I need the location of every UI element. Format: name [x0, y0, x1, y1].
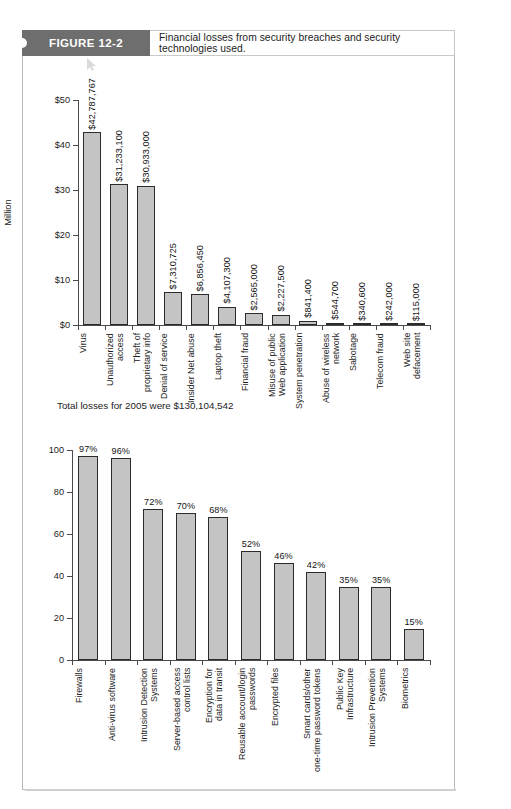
bar-value-label: $544,700	[330, 281, 340, 320]
x-tick-mark	[267, 660, 268, 665]
bar-value-label: $2,565,000	[249, 264, 259, 311]
bar	[353, 323, 371, 325]
x-tick-mark	[332, 660, 333, 665]
x-axis-line	[72, 660, 430, 661]
bar	[339, 587, 359, 661]
bar	[164, 292, 182, 325]
figure-caption: Financial losses from security breaches …	[150, 30, 455, 56]
x-tick-mark	[349, 325, 350, 330]
bar-value-label: $2,227,500	[276, 265, 286, 312]
x-tick-mark	[295, 325, 296, 330]
x-category-label: Smart cards/other one-time password toke…	[303, 668, 329, 780]
bar-value-label: 97%	[72, 444, 104, 454]
x-tick-mark	[105, 660, 106, 665]
bar	[272, 315, 290, 325]
bar-value-label: $6,856,450	[195, 245, 205, 292]
chart-2-plot-area: 02040608010097%Firewalls96%Anti-virus so…	[72, 450, 430, 660]
x-tick-mark	[170, 660, 171, 665]
bar-value-label: 15%	[398, 617, 430, 627]
x-tick-mark	[105, 325, 106, 330]
bar	[274, 563, 294, 660]
bar	[176, 513, 196, 660]
bar-value-label: $115,000	[411, 283, 421, 321]
x-tick-mark	[137, 660, 138, 665]
x-tick-mark	[430, 325, 431, 330]
bar-value-label: $340,600	[357, 282, 367, 321]
x-category-label: Financial fraud	[241, 333, 267, 411]
x-category-label: Server-based access control lists	[173, 668, 199, 780]
x-category-label: Biometrics	[401, 668, 427, 780]
x-tick-mark	[365, 660, 366, 665]
bar	[306, 572, 326, 660]
y-tick-label: 100	[24, 445, 64, 455]
x-category-label: Sabotage	[349, 333, 375, 411]
x-category-label: Abuse of wireless network	[322, 333, 348, 411]
x-tick-mark	[202, 660, 203, 665]
y-tick-label: 80	[24, 487, 64, 497]
figure-page: FIGURE 12-2 Financial losses from securi…	[0, 0, 511, 809]
figure-number-tab: FIGURE 12-2	[22, 30, 150, 56]
y-tick-mark	[73, 235, 78, 236]
bar-value-label: $841,400	[303, 279, 313, 318]
y-tick-label: $50	[30, 95, 70, 105]
y-axis-line	[72, 450, 73, 660]
figure-number-label: FIGURE 12-2	[49, 37, 123, 49]
bar-value-label: 96%	[105, 446, 137, 456]
bar	[241, 551, 261, 660]
x-category-label: Intrusion Prevention Systems	[368, 668, 394, 780]
bar-value-label: 35%	[333, 575, 365, 585]
x-tick-mark	[235, 660, 236, 665]
x-tick-mark	[376, 325, 377, 330]
bar	[299, 321, 317, 325]
y-tick-label: $0	[30, 320, 70, 330]
chart-security-technologies: 02040608010097%Firewalls96%Anti-virus so…	[0, 440, 470, 780]
x-category-label: Web site defacement	[403, 333, 429, 411]
x-tick-mark	[322, 325, 323, 330]
bar-value-label: 72%	[137, 497, 169, 507]
bar	[245, 313, 263, 325]
bar-value-label: 70%	[170, 501, 202, 511]
x-category-label: Telecom fraud	[376, 333, 402, 411]
y-tick-mark	[67, 492, 72, 493]
bar	[326, 323, 344, 325]
x-tick-mark	[430, 660, 431, 665]
x-category-label: Public Key Infrastructure	[336, 668, 362, 780]
x-tick-mark	[300, 660, 301, 665]
y-tick-label: 20	[24, 613, 64, 623]
y-tick-label: $30	[30, 185, 70, 195]
bar-value-label: $242,000	[384, 282, 394, 321]
bar-value-label: 42%	[300, 560, 332, 570]
bar	[111, 458, 131, 660]
bar	[78, 456, 98, 660]
bar	[404, 629, 424, 661]
bar-value-label: 46%	[268, 551, 300, 561]
bar-value-label: $31,233,100	[114, 130, 124, 182]
y-axis-title: Million	[2, 199, 13, 226]
y-axis-line	[78, 100, 79, 325]
bar	[191, 294, 209, 325]
bar-value-label: $7,310,725	[168, 243, 178, 290]
x-category-label: Encryption for data in transit	[205, 668, 231, 780]
bar	[110, 184, 128, 325]
y-tick-label: $20	[30, 230, 70, 240]
figure-header: FIGURE 12-2 Financial losses from securi…	[22, 30, 455, 56]
x-tick-mark	[268, 325, 269, 330]
x-tick-mark	[213, 325, 214, 330]
x-tick-mark	[72, 660, 73, 665]
x-tick-mark	[159, 325, 160, 330]
bar	[143, 509, 163, 660]
y-tick-mark	[73, 100, 78, 101]
bar-value-label: 52%	[235, 539, 267, 549]
x-tick-mark	[397, 660, 398, 665]
bar	[83, 132, 101, 325]
x-category-label: Firewalls	[75, 668, 101, 780]
y-tick-mark	[67, 534, 72, 535]
y-tick-label: 0	[24, 655, 64, 665]
bar-value-label: 68%	[202, 505, 234, 515]
y-tick-label: $10	[30, 275, 70, 285]
x-category-label: Reusable account/login passwords	[238, 668, 264, 780]
bar-value-label: $30,933,000	[141, 131, 151, 183]
y-tick-mark	[67, 576, 72, 577]
x-tick-mark	[403, 325, 404, 330]
tab-notch-icon	[17, 38, 27, 48]
